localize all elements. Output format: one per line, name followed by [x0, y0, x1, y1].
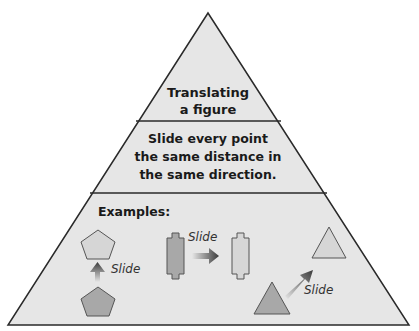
middle-line-3: the same direction.: [118, 166, 298, 184]
middle-line-2: the same distance in: [118, 148, 298, 166]
top-line-1: Translating: [148, 84, 268, 101]
notched-rect-image-icon: [232, 233, 249, 279]
slide-label-rectangle: Slide: [188, 230, 217, 244]
slide-label-triangle: Slide: [304, 283, 333, 297]
middle-section-text: Slide every point the same distance in t…: [118, 130, 298, 184]
notched-rect-original-icon-shape: [167, 233, 184, 279]
top-section-text: Translating a figure: [148, 84, 268, 118]
middle-line-1: Slide every point: [118, 130, 298, 148]
slide-label-pentagon: Slide: [111, 262, 140, 276]
top-line-2: a figure: [148, 101, 268, 118]
examples-heading: Examples:: [98, 203, 170, 220]
